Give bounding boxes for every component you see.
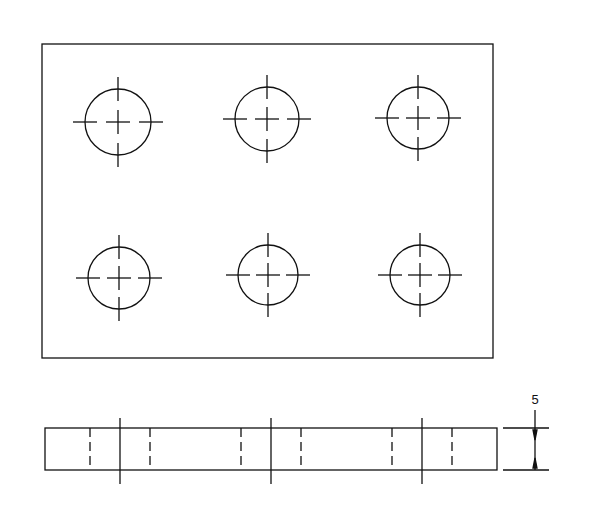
thickness-dimension <box>503 410 549 470</box>
hole <box>73 77 163 167</box>
hole <box>76 235 162 321</box>
top-view <box>42 44 493 358</box>
hole <box>223 75 311 163</box>
hole <box>378 233 462 317</box>
arrow-icon <box>533 430 537 440</box>
side-view <box>45 418 497 484</box>
hole <box>226 233 310 317</box>
dimension-label: 5 <box>531 392 538 407</box>
arrow-icon <box>533 458 537 468</box>
hole <box>375 75 461 161</box>
cad-drawing: 5 <box>0 0 591 517</box>
